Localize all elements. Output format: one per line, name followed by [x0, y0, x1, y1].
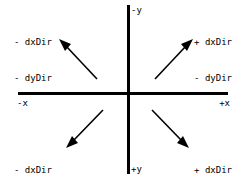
quadrant-dx-label: + dxDir: [194, 36, 232, 48]
axis-label-positive-y: +y: [131, 164, 142, 174]
arrow-up-left: [59, 39, 97, 79]
quadrant-dx-label: - dxDir: [14, 164, 52, 176]
quadrant-dy-label: - dyDir: [194, 72, 232, 84]
quadrant-label-bottom-left: - dxDir + dyDir: [14, 140, 52, 182]
quadrant-dy-label: - dyDir: [14, 72, 52, 84]
quadrant-label-top-left: - dxDir - dyDir: [14, 12, 52, 108]
quadrant-dx-label: - dxDir: [14, 36, 52, 48]
axis-label-negative-y: -y: [131, 5, 142, 15]
quadrant-label-bottom-right: + dxDir + dyDir: [194, 140, 232, 182]
arrow-down-right: [152, 110, 189, 148]
quadrant-dx-label: + dxDir: [194, 164, 232, 176]
arrow-down-left: [66, 110, 103, 148]
arrow-up-right: [155, 39, 193, 79]
quadrant-label-top-right: + dxDir - dyDir: [194, 12, 232, 108]
coordinate-direction-diagram: -y +y -x +x - dxDir - dyDir + dxDir - dy…: [0, 0, 241, 182]
